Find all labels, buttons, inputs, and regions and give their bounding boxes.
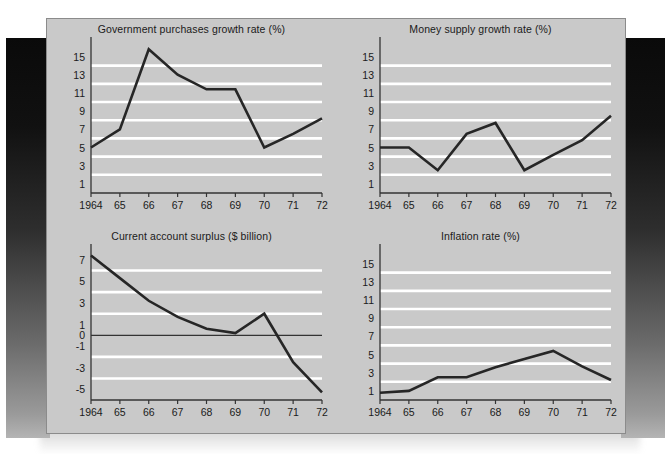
x-tick-label: 1964 xyxy=(368,199,392,211)
y-tick-label: -5 xyxy=(76,383,85,395)
y-tick-label: 1 xyxy=(79,178,85,190)
x-tick-label: 68 xyxy=(490,199,502,211)
y-tick-label: 15 xyxy=(362,258,374,270)
x-tick-label: 71 xyxy=(287,199,299,211)
y-tick-label: 1 xyxy=(368,385,374,397)
y-tick-label: 1 xyxy=(368,178,374,190)
x-tick-label: 66 xyxy=(432,199,444,211)
chart-plot-area: 75310-1-3-519646566676869707172 xyxy=(47,226,336,437)
x-tick-label: 70 xyxy=(547,406,559,418)
x-tick-label: 65 xyxy=(114,406,126,418)
x-tick-label: 67 xyxy=(461,199,473,211)
x-tick-label: 66 xyxy=(143,406,155,418)
data-series-line xyxy=(380,351,611,393)
y-tick-label: 7 xyxy=(79,254,85,266)
y-tick-label: 3 xyxy=(79,160,85,172)
y-tick-label: 13 xyxy=(73,69,85,81)
y-tick-label: 15 xyxy=(362,51,374,63)
x-tick-label: 65 xyxy=(403,199,415,211)
x-tick-label: 1964 xyxy=(79,406,103,418)
chart-government-purchases: Government purchases growth rate (%) 151… xyxy=(47,19,336,226)
x-tick-label: 69 xyxy=(519,406,531,418)
x-tick-label: 70 xyxy=(258,199,270,211)
chart-inflation-rate: Inflation rate (%) 151311975311964656667… xyxy=(336,226,625,433)
x-tick-label: 69 xyxy=(230,406,242,418)
x-tick-label: 66 xyxy=(432,406,444,418)
y-tick-label: 5 xyxy=(368,349,374,361)
x-tick-label: 67 xyxy=(172,199,184,211)
x-tick-label: 65 xyxy=(403,406,415,418)
x-tick-label: 65 xyxy=(114,199,126,211)
x-tick-label: 68 xyxy=(201,406,213,418)
x-tick-label: 67 xyxy=(461,406,473,418)
chart-svg: 1513119753119646566676869707172 xyxy=(47,19,336,226)
y-tick-label: 13 xyxy=(362,69,374,81)
data-series-line xyxy=(91,49,322,147)
y-tick-label: 7 xyxy=(368,330,374,342)
chart-svg: 1513119753119646566676869707172 xyxy=(336,226,625,433)
left-shadow-bar xyxy=(6,38,50,438)
y-tick-label: 7 xyxy=(79,123,85,135)
x-tick-label: 72 xyxy=(605,406,617,418)
x-tick-label: 71 xyxy=(287,406,299,418)
chart-money-supply: Money supply growth rate (%) 15131197531… xyxy=(336,19,625,226)
y-tick-label: 11 xyxy=(363,294,374,306)
x-tick-label: 71 xyxy=(576,406,588,418)
y-tick-label: 15 xyxy=(73,51,85,63)
x-tick-label: 70 xyxy=(547,199,559,211)
chart-plot-area: 1513119753119646566676869707172 xyxy=(47,19,336,230)
data-series-line xyxy=(91,255,322,392)
chart-svg: 75310-1-3-519646566676869707172 xyxy=(47,226,336,433)
y-tick-label: -1 xyxy=(76,340,85,352)
figure-panel: Government purchases growth rate (%) 151… xyxy=(46,18,626,434)
chart-plot-area: 1513119753119646566676869707172 xyxy=(336,226,625,437)
y-tick-label: 11 xyxy=(363,87,374,99)
x-tick-label: 72 xyxy=(316,199,328,211)
x-tick-label: 1964 xyxy=(368,406,392,418)
y-tick-label: 11 xyxy=(74,87,85,99)
x-tick-label: 1964 xyxy=(79,199,103,211)
y-tick-label: 13 xyxy=(362,276,374,288)
y-tick-label: 7 xyxy=(368,123,374,135)
y-tick-label: 3 xyxy=(79,297,85,309)
chart-plot-area: 1513119753119646566676869707172 xyxy=(336,19,625,230)
x-tick-label: 69 xyxy=(230,199,242,211)
y-tick-label: 5 xyxy=(368,142,374,154)
x-tick-label: 72 xyxy=(316,406,328,418)
x-tick-label: 69 xyxy=(519,199,531,211)
y-tick-label: 9 xyxy=(368,312,374,324)
y-tick-label: 9 xyxy=(79,105,85,117)
x-tick-label: 71 xyxy=(576,199,588,211)
y-tick-label: 5 xyxy=(79,275,85,287)
x-tick-label: 68 xyxy=(490,406,502,418)
data-series-line xyxy=(380,116,611,171)
y-tick-label: -3 xyxy=(76,362,85,374)
x-tick-label: 68 xyxy=(201,199,213,211)
x-tick-label: 70 xyxy=(258,406,270,418)
chart-svg: 1513119753119646566676869707172 xyxy=(336,19,625,226)
x-tick-label: 72 xyxy=(605,199,617,211)
right-shadow-bar xyxy=(621,38,665,438)
y-tick-label: 9 xyxy=(368,105,374,117)
y-tick-label: 3 xyxy=(368,160,374,172)
x-tick-label: 67 xyxy=(172,406,184,418)
x-tick-label: 66 xyxy=(143,199,155,211)
y-tick-label: 3 xyxy=(368,367,374,379)
chart-current-account-surplus: Current account surplus ($ billion) 7531… xyxy=(47,226,336,433)
y-tick-label: 5 xyxy=(79,142,85,154)
